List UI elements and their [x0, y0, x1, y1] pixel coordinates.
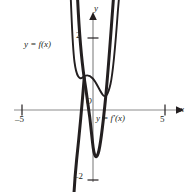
curve-label-f-prime: y = f′(x)	[96, 114, 125, 123]
y-axis-label: y	[94, 4, 98, 13]
x-tick-label-minus5: –5	[15, 115, 24, 124]
x-tick-label-5: 5	[160, 115, 165, 124]
axes-group	[14, 12, 184, 182]
origin-label: O	[86, 98, 92, 106]
y-tick-label-2: 2	[76, 31, 81, 40]
y-tick-label-minus2: –2	[74, 172, 83, 181]
x-axis-label: x	[180, 105, 184, 114]
y-axis-arrow-icon	[89, 12, 97, 20]
curve-label-f: y = f(x)	[24, 40, 51, 49]
figure-graph-f-and-fprime: y = f(x) y = f′(x) y x O 2 –2 5 –5	[0, 0, 194, 192]
graph-canvas	[0, 0, 194, 192]
